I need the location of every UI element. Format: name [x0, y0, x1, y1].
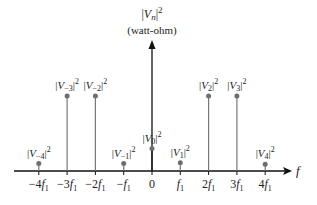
stem-value-label: |V4|2 — [256, 145, 275, 161]
x-tick-label: −2f1 — [85, 177, 105, 193]
stem-dot — [206, 94, 211, 99]
x-tick-label: f1 — [177, 177, 184, 193]
stem-value-label: |V−2|2 — [84, 77, 108, 93]
x-tick-label: 4f1 — [259, 177, 272, 193]
stem-dot — [93, 94, 98, 99]
x-tick-label: 0 — [149, 177, 155, 191]
stem-value-label: |V3|2 — [227, 77, 246, 93]
x-tick-label: −4f1 — [29, 177, 49, 193]
stem-dot — [234, 94, 239, 99]
stem-dot — [121, 161, 126, 166]
x-tick-label: 3f1 — [230, 177, 243, 193]
stem-dot — [65, 94, 70, 99]
y-axis-label: |Vn|2 — [141, 5, 162, 22]
stem-dot — [150, 146, 155, 151]
stem-value-label: |V−4|2 — [27, 145, 51, 161]
x-axis-label: f — [296, 163, 302, 178]
power-spectrum-plot: f|Vn|2(watt-ohm)|V−4|2−4f1|V−3|2−3f1|V−2… — [0, 0, 317, 205]
y-axis-unit: (watt-ohm) — [127, 24, 177, 37]
stem-dot — [263, 162, 268, 167]
stem-value-label: |V1|2 — [171, 144, 190, 160]
x-tick-label: −f1 — [117, 177, 131, 193]
stem-dot — [36, 161, 41, 166]
y-axis-arrow-icon — [149, 40, 156, 49]
x-tick-label: −3f1 — [57, 177, 77, 193]
stem-value-label: |V−1|2 — [112, 145, 136, 161]
stem-value-label: |V−3|2 — [55, 77, 79, 93]
x-tick-label: 2f1 — [202, 177, 215, 193]
spectrum-diagram: f|Vn|2(watt-ohm)|V−4|2−4f1|V−3|2−3f1|V−2… — [0, 0, 317, 205]
stem-dot — [178, 160, 183, 165]
stem-value-label: |V2|2 — [199, 77, 218, 93]
